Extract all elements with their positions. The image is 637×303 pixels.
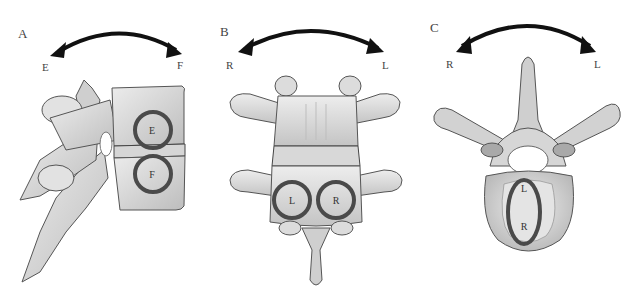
circle-label-r: R	[333, 195, 340, 206]
rotation-arrow-icon	[238, 31, 384, 56]
anterior-vertebra-illustration	[210, 0, 420, 303]
superior-vertebra-illustration	[420, 0, 637, 303]
circle-label-f: F	[149, 169, 155, 180]
rotation-arrow-icon	[456, 26, 596, 54]
panel-a-lateral-view: A E F E F	[0, 0, 210, 303]
circle-label-l: L	[289, 195, 295, 206]
ellipse-label-l: L	[521, 183, 527, 194]
panel-c-superior-view: C R L L R	[420, 0, 637, 303]
panel-b-anterior-view: B R L	[210, 0, 420, 303]
ellipse-label-r: R	[521, 221, 528, 232]
rotation-arrow-icon	[50, 33, 182, 58]
lateral-vertebra-illustration	[0, 0, 210, 303]
circle-label-e: E	[149, 125, 155, 136]
